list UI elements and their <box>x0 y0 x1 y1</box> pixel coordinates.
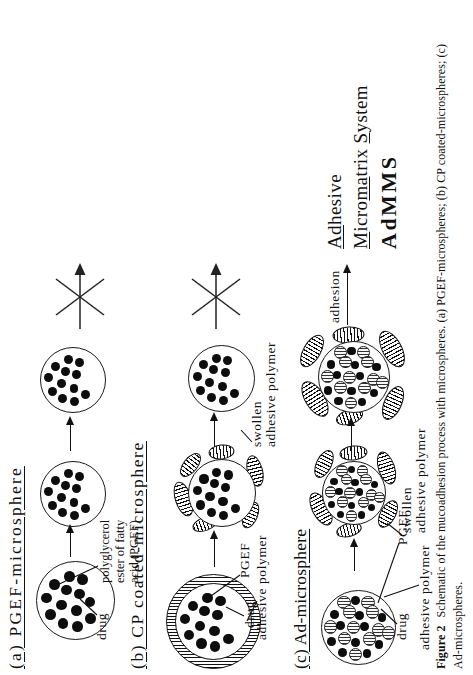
leader-line <box>384 585 419 597</box>
adhesive-polymer-label-b: adhesive polymer <box>255 535 269 640</box>
drug-label-c: drug <box>395 613 409 640</box>
pgef-label-line1: polyglycerol <box>98 520 113 583</box>
swollen-label-c: swollen adhesive polymer <box>400 428 428 533</box>
pgef-label-a: polyglycerol ester of fatty acid (PGEF) <box>98 520 142 583</box>
row-c-heading: (c) Ad-microsphere <box>290 529 311 669</box>
arrow-right-icon <box>214 421 215 447</box>
swollen-label-line1: swollen <box>250 342 264 447</box>
swollen-label-line2: adhesive polymer <box>414 428 428 533</box>
arrow-right-icon <box>354 547 355 571</box>
row-a-heading: (a) PGEF-microsphere <box>5 466 26 669</box>
admms-text: trix <box>350 143 371 176</box>
arrow-right-icon <box>214 539 215 567</box>
caption-line1: Figure 2Schematic of the mucoadhesion pr… <box>433 44 450 669</box>
admms-underlined: S <box>350 132 371 143</box>
swollen-label-b: swollen adhesive polymer <box>250 342 278 447</box>
figure-caption: Figure 2Schematic of the mucoadhesion pr… <box>433 44 466 669</box>
caption-line2: Ad-microspheres. <box>450 44 467 669</box>
pgef-label-line3: acid (PGEF) <box>127 520 142 583</box>
pgef-label-b: PGEF <box>238 543 252 578</box>
admms-underlined: ma <box>350 177 371 201</box>
leader-line <box>378 543 399 603</box>
rotated-page: (a) PGEF-microsphere (b) CP coated-micro… <box>0 0 473 675</box>
admms-line2: Micromatrix System <box>348 85 374 249</box>
no-adhesion-icon <box>50 261 110 331</box>
figure-canvas: (a) PGEF-microsphere (b) CP coated-micro… <box>0 0 473 675</box>
adhesion-arrow-icon <box>347 273 348 325</box>
arrow-right-icon <box>70 533 71 557</box>
admms-text: ystem <box>350 85 371 132</box>
admms-underlined: M <box>350 232 371 249</box>
caption-text: Schematic of the mucoadhesion process wi… <box>434 44 448 618</box>
swollen-label-line1: swollen <box>400 428 414 533</box>
admms-text: icro <box>350 201 371 232</box>
arrow-right-icon <box>70 425 71 451</box>
adhesive-polymer-label-c: adhesive polymer <box>418 545 432 650</box>
leader-line <box>55 566 98 586</box>
admms-text: hesive <box>324 174 345 225</box>
leader-line <box>211 575 240 596</box>
arrow-right-icon <box>351 426 352 450</box>
drug-label-a: drug <box>95 613 109 640</box>
adhesion-label: adhesion <box>328 270 342 323</box>
pgef-label-line2: ester of fatty <box>113 520 128 583</box>
caption-tag: Figure 2 <box>434 625 448 669</box>
admms-line1: Adhesive <box>322 85 348 249</box>
admms-acronym: AdMMS <box>374 85 404 249</box>
admms-underlined: Ad <box>324 225 345 249</box>
swollen-label-line2: adhesive polymer <box>264 342 278 447</box>
admms-title: Adhesive Micromatrix System AdMMS <box>322 85 404 249</box>
no-adhesion-icon <box>186 261 246 331</box>
